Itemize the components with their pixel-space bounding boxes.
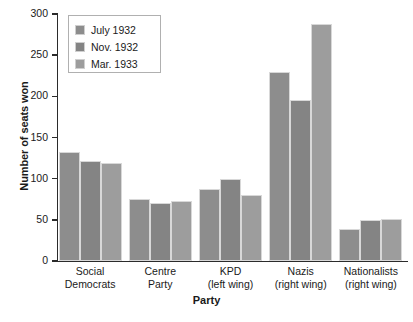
bar-chart: Number of seats won 050100150200250300 S… xyxy=(0,0,413,322)
legend-item: July 1932 xyxy=(75,21,160,38)
legend-label: Mar. 1933 xyxy=(91,58,138,70)
x-axis-category-label: Nationalists(right wing) xyxy=(326,265,413,290)
bar xyxy=(290,100,311,261)
y-axis-tick-label: 200 xyxy=(8,89,48,101)
y-axis-tick-mark xyxy=(52,96,57,97)
y-axis-tick-mark xyxy=(52,178,57,179)
bar xyxy=(339,229,360,261)
bar xyxy=(101,163,122,261)
x-axis-title: Party xyxy=(0,294,413,306)
bar xyxy=(241,195,262,261)
bar xyxy=(171,201,192,261)
bar xyxy=(150,203,171,261)
y-axis-tick-label: 150 xyxy=(8,131,48,143)
y-axis-tick-label: 50 xyxy=(8,213,48,225)
y-axis-tick-mark xyxy=(52,260,57,261)
legend-swatch xyxy=(75,59,85,69)
bar xyxy=(199,189,220,261)
bar xyxy=(269,72,290,261)
bar xyxy=(59,152,80,262)
legend-swatch xyxy=(75,42,85,52)
y-axis-tick-mark xyxy=(52,219,57,220)
bar xyxy=(129,199,150,261)
legend-item: Mar. 1933 xyxy=(75,55,160,72)
bar xyxy=(360,220,381,261)
x-axis-category-label-line: (right wing) xyxy=(326,278,413,291)
y-axis-tick-label: 100 xyxy=(8,172,48,184)
y-axis-tick-mark xyxy=(52,54,57,55)
legend: July 1932Nov. 1932Mar. 1933 xyxy=(68,15,161,73)
y-axis-tick-label: 300 xyxy=(8,7,48,19)
x-axis-category-label-line: Nationalists xyxy=(326,265,413,278)
legend-swatch xyxy=(75,25,85,35)
bar xyxy=(220,179,241,261)
bar xyxy=(311,24,332,261)
y-axis-tick-label: 250 xyxy=(8,48,48,60)
y-axis-tick-mark xyxy=(52,13,57,14)
y-axis-tick-label: 0 xyxy=(8,254,48,266)
legend-label: July 1932 xyxy=(91,24,136,36)
legend-label: Nov. 1932 xyxy=(91,41,138,53)
bar xyxy=(80,161,101,261)
legend-item: Nov. 1932 xyxy=(75,38,160,55)
y-axis-tick-mark xyxy=(52,137,57,138)
bar xyxy=(381,219,402,261)
